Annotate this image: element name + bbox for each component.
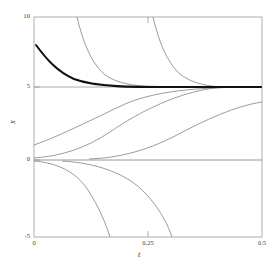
y-axis-title: x: [9, 120, 17, 124]
curve-diverging-a: [34, 161, 110, 237]
ytick-label-0: 0: [14, 156, 30, 163]
xtick-label-025: 0.25: [134, 240, 162, 247]
ytick-label-5: 5: [14, 83, 30, 90]
figure-container: 10 5 0 -5 0 0.25 0.5 x t: [0, 0, 278, 269]
curve-diverging-b: [62, 161, 172, 237]
trajectory-curves: [34, 17, 262, 237]
plot-canvas: [0, 0, 278, 269]
curve-above-b: [153, 17, 262, 87]
ytick-label-minus5: -5: [12, 233, 30, 240]
curve-above-a: [77, 17, 262, 87]
x-axis-title: t: [0, 251, 278, 259]
plot-frame: [34, 17, 262, 237]
curve-below-c: [89, 102, 262, 159]
curve-thick-from-8: [36, 45, 261, 87]
tick-marks: [34, 17, 148, 237]
xtick-label-0: 0: [26, 240, 42, 247]
equilibrium-lines: [34, 87, 262, 160]
curve-below-a: [34, 87, 262, 145]
ytick-label-10: 10: [14, 13, 30, 20]
xtick-label-05: 0.5: [251, 240, 273, 247]
axes-frame: [34, 17, 262, 237]
highlighted-trajectory: [36, 45, 261, 87]
